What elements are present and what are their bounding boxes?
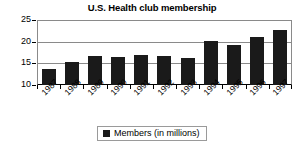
legend-label: Members (in millions) [114,128,200,138]
legend-swatch-icon [103,130,110,137]
y-tick-mark [32,42,36,43]
x-tick-mark [222,85,223,89]
chart-legend: Members (in millions) [97,126,207,141]
x-tick-mark [107,85,108,89]
x-tick-mark [60,85,61,89]
y-tick-mark [32,85,36,86]
y-tick-label: 25 [21,15,31,24]
y-axis: 10152025 [0,0,36,105]
chart-figure: U.S. Health club membership 10152025 198… [0,0,304,151]
x-tick-mark [246,85,247,89]
y-tick-label: 15 [21,58,31,67]
x-tick-mark [199,85,200,89]
x-tick-mark [269,85,270,89]
x-tick-mark [130,85,131,89]
x-tick-mark [153,85,154,89]
x-tick-mark [83,85,84,89]
x-tick-mark [37,85,38,89]
x-axis: 1987198819891990199119921993199419951996… [37,85,292,123]
y-tick-label: 10 [21,80,31,89]
bar-series [37,20,292,85]
y-tick-mark [32,20,36,21]
plot-area-wrapper [37,20,292,85]
chart-title: U.S. Health club membership [0,2,304,13]
bar [273,30,287,85]
x-tick-mark [291,85,292,89]
y-tick-label: 20 [21,37,31,46]
x-tick-mark [176,85,177,89]
y-tick-mark [32,63,36,64]
